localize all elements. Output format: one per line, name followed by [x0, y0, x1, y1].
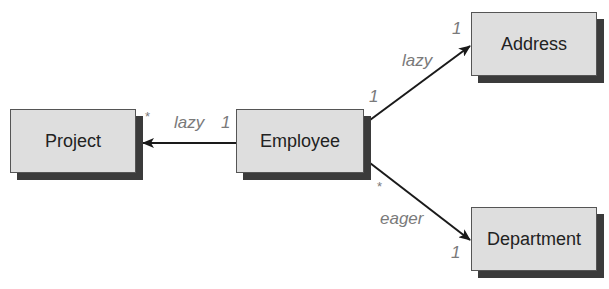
node-address-label: Address: [501, 34, 567, 55]
multiplicity-project-target: *: [145, 110, 150, 123]
node-employee-label: Employee: [260, 131, 340, 152]
multiplicity-address-target: 1: [452, 20, 461, 37]
multiplicity-project-source: 1: [221, 114, 230, 131]
multiplicity-department-target: 1: [451, 244, 460, 261]
fetch-label-address: lazy: [402, 52, 432, 69]
multiplicity-address-source: 1: [369, 88, 378, 105]
diagram-canvas: Project Employee Address Department * la…: [0, 0, 609, 289]
node-address[interactable]: Address: [471, 12, 597, 76]
fetch-label-department: eager: [380, 210, 423, 227]
node-project[interactable]: Project: [10, 109, 136, 173]
node-department-label: Department: [487, 229, 581, 250]
edge-employee-department: [370, 163, 470, 240]
fetch-label-project: lazy: [174, 114, 204, 131]
multiplicity-department-source: *: [377, 180, 382, 193]
node-department[interactable]: Department: [471, 207, 597, 271]
node-project-label: Project: [45, 131, 101, 152]
node-employee[interactable]: Employee: [236, 109, 364, 173]
